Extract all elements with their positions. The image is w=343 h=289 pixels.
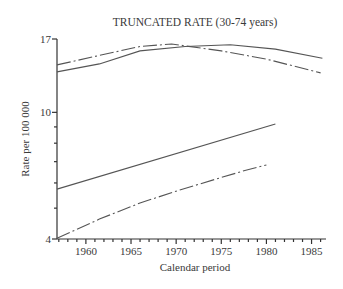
chart-title: TRUNCATED RATE (30-74 years) bbox=[113, 16, 278, 29]
x-tick-label: 1980 bbox=[255, 245, 278, 257]
y-tick-label: 10 bbox=[40, 106, 52, 118]
series-upper-solid bbox=[57, 45, 322, 72]
x-tick-label: 1970 bbox=[165, 245, 188, 257]
x-tick-label: 1975 bbox=[210, 245, 233, 257]
x-tick-label: 1960 bbox=[75, 245, 98, 257]
series-lower-solid bbox=[57, 124, 275, 189]
line-chart: TRUNCATED RATE (30-74 years) 41017196019… bbox=[0, 0, 343, 289]
y-tick-label: 4 bbox=[46, 233, 52, 245]
y-axis-label: Rate per 100 000 bbox=[19, 101, 31, 177]
x-axis-label: Calendar period bbox=[160, 261, 231, 273]
x-tick-label: 1965 bbox=[120, 245, 143, 257]
plot-area bbox=[57, 44, 322, 238]
y-tick-label: 17 bbox=[40, 33, 52, 45]
series-lower-dashdot bbox=[57, 165, 266, 238]
series-upper-dashdot bbox=[57, 44, 321, 73]
x-tick-label: 1985 bbox=[301, 245, 324, 257]
